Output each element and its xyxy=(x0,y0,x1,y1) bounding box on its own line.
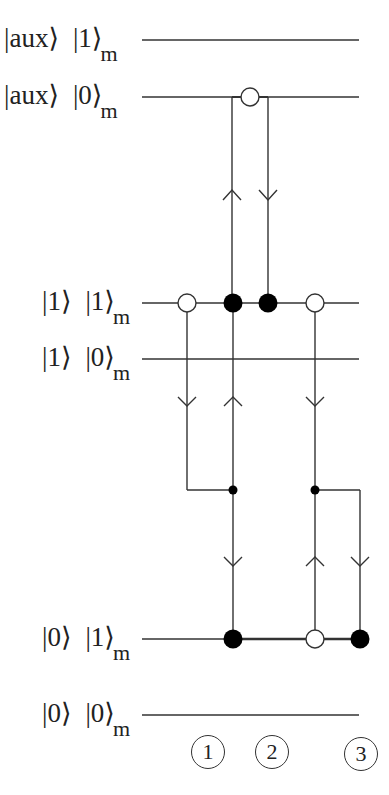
subscript: m xyxy=(113,640,130,665)
filled-dot-icon xyxy=(224,294,243,313)
energy-level-diagram: |aux⟩|1⟩m |aux⟩|0⟩m |1⟩|1⟩m |1⟩|0⟩m |0⟩|… xyxy=(0,0,389,795)
ket-right: |1⟩ xyxy=(85,288,114,315)
ket-right: |0⟩ xyxy=(73,82,102,109)
level-label-0-1m: |0⟩|1⟩m xyxy=(42,624,132,651)
subscript: m xyxy=(100,41,117,66)
open-dot-icon xyxy=(241,88,259,106)
ket-right: |0⟩ xyxy=(85,344,114,371)
subscript: m xyxy=(100,98,117,123)
ket-right: |1⟩ xyxy=(85,624,114,651)
ket-right: |1⟩ xyxy=(73,25,102,52)
filled-dot-icon xyxy=(259,294,278,313)
level-label-0-0m: |0⟩|0⟩m xyxy=(42,700,132,727)
step-marker-3: 3 xyxy=(344,737,378,771)
ket-left: |0⟩ xyxy=(42,700,71,727)
level-label-aux-1m: |aux⟩|1⟩m xyxy=(4,25,120,52)
level-label-1-1m: |1⟩|1⟩m xyxy=(42,288,132,315)
ket-left: |0⟩ xyxy=(42,624,71,651)
diagram-graphics xyxy=(0,0,389,795)
ket-left: |aux⟩ xyxy=(4,82,59,109)
junction-dot-icon xyxy=(229,486,238,495)
filled-dot-icon xyxy=(224,630,243,649)
level-label-aux-0m: |aux⟩|0⟩m xyxy=(4,82,120,109)
step-marker-2: 2 xyxy=(255,735,289,769)
filled-dot-icon xyxy=(351,630,370,649)
ket-left: |1⟩ xyxy=(42,344,71,371)
open-dot-icon xyxy=(306,294,324,312)
open-dot-icon xyxy=(306,630,324,648)
step-marker-1: 1 xyxy=(191,735,225,769)
junction-dot-icon xyxy=(311,486,320,495)
subscript: m xyxy=(113,304,130,329)
subscript: m xyxy=(113,716,130,741)
open-dot-icon xyxy=(178,294,196,312)
subscript: m xyxy=(113,360,130,385)
ket-left: |1⟩ xyxy=(42,288,71,315)
level-label-1-0m: |1⟩|0⟩m xyxy=(42,344,132,371)
ket-right: |0⟩ xyxy=(85,700,114,727)
ket-left: |aux⟩ xyxy=(4,25,59,52)
